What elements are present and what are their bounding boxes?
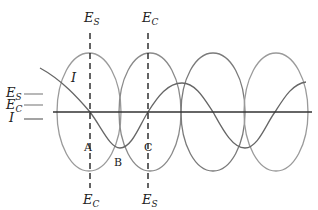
current-curve [40, 68, 306, 148]
point-c: C [144, 141, 152, 154]
current-curve-label: I [70, 70, 77, 85]
point-a: A [83, 141, 93, 154]
legend-label-i: I [8, 110, 15, 125]
top-label-ec: EC [141, 10, 159, 27]
bottom-label-es: ES [141, 192, 158, 209]
top-label-es: ES [83, 10, 100, 27]
point-b: B [114, 156, 122, 169]
waveform-diagram: ES EC EC ES ES EC I I A B C [0, 0, 318, 210]
bottom-label-ec: EC [82, 192, 100, 209]
